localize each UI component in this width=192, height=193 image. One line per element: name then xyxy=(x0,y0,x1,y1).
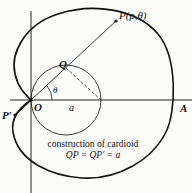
label-theta: θ xyxy=(53,86,57,95)
point-O xyxy=(29,98,32,101)
point-P-prime xyxy=(13,113,16,116)
radius-line-OP xyxy=(31,20,117,100)
caption: construction of cardioid QP = QP′ = a xyxy=(38,139,148,161)
cardioid-diagram xyxy=(0,0,192,193)
label-Q: Q xyxy=(59,59,67,70)
radius-line-OPprime xyxy=(16,100,31,114)
label-a: a xyxy=(69,103,74,113)
label-A: A xyxy=(180,103,187,114)
label-O: O xyxy=(34,102,42,113)
caption-line-1: construction of cardioid xyxy=(38,139,148,150)
label-P-prime: P′ xyxy=(2,110,12,121)
point-P xyxy=(114,19,117,22)
label-P: P(ρ,θ) xyxy=(119,10,146,21)
theta-arc xyxy=(47,86,52,100)
dashed-chord xyxy=(66,68,101,100)
caption-line-2: QP = QP′ = a xyxy=(38,150,148,161)
